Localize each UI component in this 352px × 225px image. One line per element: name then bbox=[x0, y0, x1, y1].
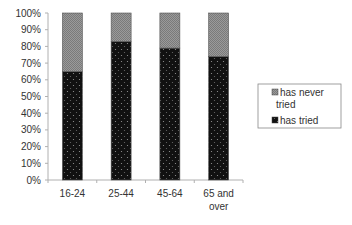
y-tick-label: 100% bbox=[15, 8, 41, 19]
x-tick-label: 25-44 bbox=[108, 188, 134, 199]
legend-label: tried bbox=[276, 99, 295, 110]
bar-has-tried bbox=[62, 71, 82, 180]
legend-label: has tried bbox=[280, 115, 318, 126]
y-tick-label: 20% bbox=[21, 141, 41, 152]
y-tick-label: 30% bbox=[21, 124, 41, 135]
x-tick-label: 65 and bbox=[203, 188, 234, 199]
y-tick-label: 0% bbox=[27, 175, 42, 186]
bar-has-never-tried bbox=[62, 13, 82, 71]
stacked-bar-chart: 0%10%20%30%40%50%60%70%80%90%100%16-2425… bbox=[0, 0, 352, 225]
y-tick-label: 40% bbox=[21, 108, 41, 119]
y-tick-label: 90% bbox=[21, 24, 41, 35]
x-tick-label: over bbox=[209, 201, 229, 212]
x-tick-label: 45-64 bbox=[157, 188, 183, 199]
bar-has-tried bbox=[111, 41, 131, 180]
bar-has-tried bbox=[160, 48, 180, 180]
legend: has nevertriedhas tried bbox=[258, 84, 341, 128]
bar-has-never-tried bbox=[160, 13, 180, 48]
y-tick-label: 50% bbox=[21, 91, 41, 102]
bar-has-tried bbox=[209, 56, 229, 180]
bar-has-never-tried bbox=[111, 13, 131, 41]
y-tick-label: 80% bbox=[21, 41, 41, 52]
bar-has-never-tried bbox=[209, 13, 229, 56]
y-tick-label: 60% bbox=[21, 74, 41, 85]
legend-label: has never bbox=[280, 87, 325, 98]
legend-swatch bbox=[272, 117, 278, 123]
y-tick-label: 70% bbox=[21, 58, 41, 69]
legend-swatch bbox=[272, 89, 278, 95]
bars bbox=[62, 13, 228, 180]
x-tick-label: 16-24 bbox=[60, 188, 86, 199]
y-tick-label: 10% bbox=[21, 158, 41, 169]
